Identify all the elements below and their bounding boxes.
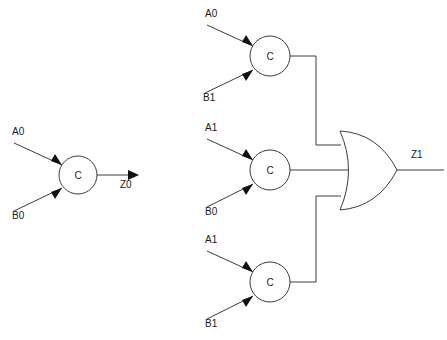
arrowhead-a0-gate-c-top	[242, 35, 253, 46]
output-label-z1: Z1	[411, 149, 423, 160]
gate-c-middle-label: C	[266, 165, 273, 176]
input-label-b0-left: B0	[12, 210, 25, 221]
subcircuit-z0: C A0 B0 Z0	[12, 126, 139, 221]
arrowhead-b1-gate-c-top	[242, 70, 253, 81]
subcircuit-top-gate: C A0 B1	[203, 8, 341, 145]
output-label-z0: Z0	[120, 179, 132, 190]
input-label-a1-middle: A1	[205, 122, 218, 133]
input-label-a1-bottom: A1	[205, 234, 218, 245]
wire-gate-c-bottom-to-bus	[290, 196, 341, 282]
arrowhead-b0-gate-c-middle	[242, 184, 253, 195]
gate-or-z1-group: Z1	[340, 131, 444, 210]
input-label-b0-middle: B0	[205, 206, 218, 217]
input-label-a0-left: A0	[12, 126, 25, 137]
circuit-canvas: C A0 B0 Z0 C A0 B1 C A1	[0, 0, 447, 340]
circuit-diagram: C A0 B0 Z0 C A0 B1 C A1	[0, 0, 447, 340]
arrowhead-a0-gate-c-z0	[51, 154, 62, 165]
arrowhead-a1-gate-c-middle	[242, 149, 253, 160]
input-label-b1-top: B1	[203, 92, 216, 103]
subcircuit-middle-gate: C A1 B0	[205, 122, 353, 217]
arrowhead-a1-gate-c-bottom	[242, 261, 253, 272]
subcircuit-bottom-gate: C A1 B1	[205, 196, 341, 329]
gate-c-z0-label: C	[74, 170, 81, 181]
input-label-a0-top: A0	[205, 8, 218, 19]
gate-or-z1[interactable]	[340, 131, 397, 210]
arrowhead-b0-gate-c-z0	[51, 188, 62, 199]
gate-c-bottom-label: C	[266, 277, 273, 288]
gate-c-top-label: C	[266, 51, 273, 62]
wire-gate-c-top-to-bus	[290, 56, 341, 145]
arrowhead-b1-gate-c-bottom	[242, 296, 253, 307]
input-label-b1-bottom: B1	[205, 318, 218, 329]
